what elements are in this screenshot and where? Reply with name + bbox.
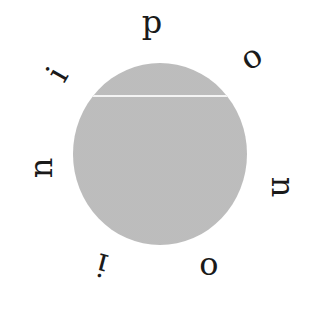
letter-o-upper-right: o xyxy=(229,34,273,80)
letter-n-right: n xyxy=(265,172,301,202)
letter-n-left: n xyxy=(23,153,59,183)
letter-i-upper-left: i xyxy=(34,52,80,96)
letter-i-bottom-left: i xyxy=(83,244,121,287)
gray-disc xyxy=(73,63,247,245)
letter-o-bottom: o xyxy=(194,246,224,282)
chord-line xyxy=(73,95,247,97)
letter-p-top: p xyxy=(137,4,167,40)
letter-ring-diagram: p o n o i n i xyxy=(0,0,314,311)
